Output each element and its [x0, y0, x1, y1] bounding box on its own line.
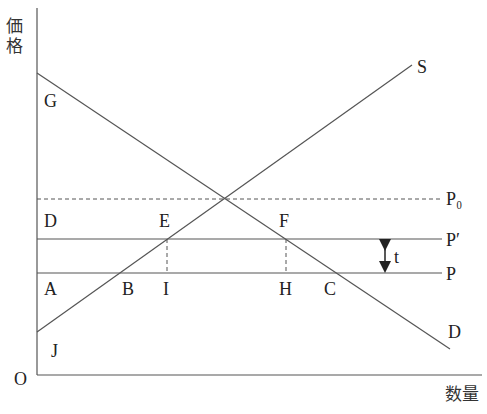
point-f: F	[279, 211, 289, 231]
point-e: E	[159, 211, 170, 231]
y-axis-label-2: 格	[6, 36, 23, 56]
tax-label: t	[394, 247, 399, 267]
y-axis-label-1: 価	[6, 16, 23, 36]
x-axis-label: 数量	[445, 384, 479, 404]
point-d: D	[44, 211, 57, 231]
origin-label: O	[14, 369, 27, 389]
point-a: A	[44, 279, 57, 299]
point-b: B	[122, 279, 134, 299]
supply-demand-diagram: 価 格 数量 O S D P₀ P′ P t G D E F A B I H C…	[0, 0, 487, 414]
point-j: J	[51, 341, 58, 361]
point-c: C	[324, 279, 336, 299]
p0-label: P₀	[446, 189, 462, 209]
p-prime-label: P′	[446, 230, 460, 250]
point-g: G	[44, 91, 57, 111]
point-h: H	[279, 279, 292, 299]
point-i: I	[163, 279, 169, 299]
demand-label: D	[448, 322, 461, 342]
demand-curve	[37, 73, 450, 349]
p-label: P	[446, 264, 456, 284]
supply-label: S	[417, 57, 427, 77]
